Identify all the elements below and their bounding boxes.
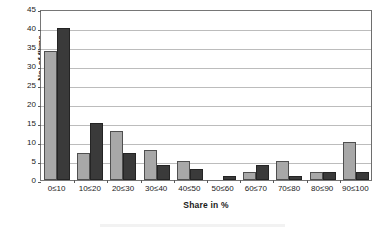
bar <box>356 172 369 180</box>
x-tick-mark <box>240 180 241 183</box>
bar-group <box>174 11 207 180</box>
bar-group <box>240 11 273 180</box>
x-tick-mark <box>107 180 108 183</box>
bar <box>343 142 356 180</box>
y-tick-label: 40 <box>16 25 36 33</box>
x-tick-mark <box>141 180 142 183</box>
y-tick-label: 45 <box>16 6 36 14</box>
y-tick-label: 15 <box>16 120 36 128</box>
x-tick-label: 50≤60 <box>206 184 239 194</box>
y-tick-label: 30 <box>16 63 36 71</box>
bar <box>256 165 269 180</box>
y-tick-label: 0 <box>16 177 36 185</box>
bar <box>110 131 123 180</box>
bar <box>276 161 289 180</box>
x-tick-label: 40≤50 <box>173 184 206 194</box>
bar <box>57 28 70 180</box>
x-tick-mark <box>307 180 308 183</box>
bar-group <box>74 11 107 180</box>
bar <box>243 172 256 180</box>
x-tick-label: 70≤80 <box>272 184 305 194</box>
y-tick-label: 35 <box>16 44 36 52</box>
page-artifact <box>100 224 285 227</box>
bar-group <box>141 11 174 180</box>
x-tick-label: 60≤70 <box>239 184 272 194</box>
bar <box>90 123 103 180</box>
x-tick-label: 30≤40 <box>140 184 173 194</box>
bar <box>77 153 90 180</box>
y-tick-label: 5 <box>16 158 36 166</box>
bar <box>144 150 157 180</box>
bars-layer <box>41 11 371 180</box>
bar <box>310 172 323 180</box>
bar <box>190 169 203 180</box>
bar <box>44 51 57 180</box>
x-tick-mark <box>340 180 341 183</box>
x-tick-mark <box>74 180 75 183</box>
y-axis-tick-labels: 051015202530354045 <box>16 10 36 181</box>
bar <box>123 153 136 180</box>
bar <box>177 161 190 180</box>
bar-chart-figure: No. of firms 051015202530354045 0≤1010≤2… <box>0 0 383 235</box>
y-tick-mark <box>38 182 41 183</box>
bar <box>223 176 236 180</box>
x-tick-mark <box>174 180 175 183</box>
x-tick-mark <box>273 180 274 183</box>
bar-group <box>107 11 140 180</box>
x-tick-label: 0≤10 <box>40 184 73 194</box>
x-tick-label: 90≤100 <box>339 184 372 194</box>
x-tick-label: 20≤30 <box>106 184 139 194</box>
bar-group <box>340 11 373 180</box>
y-tick-label: 10 <box>16 139 36 147</box>
bar <box>157 165 170 180</box>
bar-group <box>41 11 74 180</box>
bar <box>323 172 336 180</box>
x-tick-mark <box>207 180 208 183</box>
x-axis-title: Share in % <box>40 200 372 210</box>
x-axis-tick-labels: 0≤1010≤2020≤3030≤4040≤5050≤6060≤7070≤808… <box>40 184 372 196</box>
bar <box>289 176 302 180</box>
y-tick-label: 25 <box>16 82 36 90</box>
x-tick-label: 10≤20 <box>73 184 106 194</box>
bar-group <box>207 11 240 180</box>
plot-area <box>40 10 372 181</box>
bar-group <box>273 11 306 180</box>
y-tick-label: 20 <box>16 101 36 109</box>
bar-group <box>307 11 340 180</box>
x-tick-label: 80≤90 <box>306 184 339 194</box>
